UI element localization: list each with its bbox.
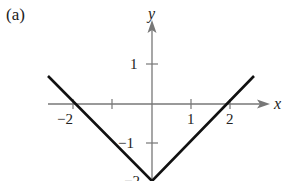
x-tick-1: 1	[187, 112, 195, 127]
abs-value-curve	[48, 76, 254, 181]
plot-area	[0, 0, 289, 181]
y-axis-label: y	[148, 6, 155, 22]
x-axis-label: x	[274, 96, 281, 112]
y-tick-minus-1: −1	[118, 136, 134, 151]
y-tick-minus-2: −2	[124, 174, 140, 181]
graph-figure: (a) y x 1 −2 1 2 −1 −2	[0, 0, 289, 181]
x-tick-2: 2	[226, 112, 234, 127]
x-tick-minus-2: −2	[57, 112, 73, 127]
y-tick-1: 1	[130, 57, 138, 72]
